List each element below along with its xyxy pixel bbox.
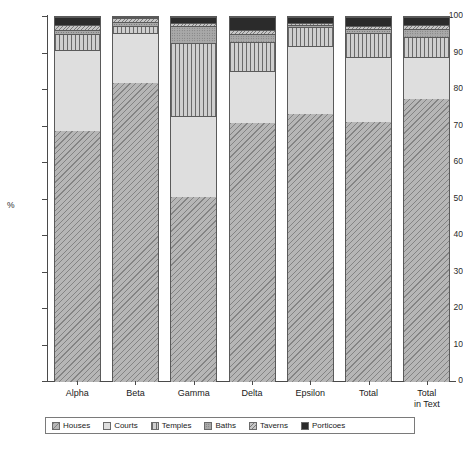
segment-porticoes[interactable] bbox=[230, 17, 275, 30]
bar-delta[interactable] bbox=[229, 16, 276, 381]
legend-swatch-baths-icon bbox=[204, 422, 212, 430]
segment-temples[interactable] bbox=[230, 42, 275, 71]
segment-baths[interactable] bbox=[55, 30, 100, 34]
segment-houses[interactable] bbox=[230, 123, 275, 382]
chart-legend: HousesCourtsTemplesBathsTavernsPorticoes bbox=[45, 417, 415, 434]
y-tick-mark bbox=[42, 381, 47, 382]
y-tick-mark bbox=[42, 345, 47, 346]
y-tick-mark bbox=[42, 16, 47, 17]
bar-total[interactable] bbox=[345, 16, 392, 381]
legend-label: Porticoes bbox=[312, 422, 345, 430]
segment-temples[interactable] bbox=[404, 37, 449, 57]
legend-label: Houses bbox=[63, 422, 90, 430]
segment-baths[interactable] bbox=[404, 29, 449, 37]
segment-taverns[interactable] bbox=[113, 18, 158, 21]
x-tick-label: Epsilon bbox=[281, 388, 339, 399]
segment-baths[interactable] bbox=[346, 29, 391, 34]
segment-houses[interactable] bbox=[288, 114, 333, 382]
segment-courts[interactable] bbox=[288, 46, 333, 114]
segment-porticoes[interactable] bbox=[288, 17, 333, 23]
segment-courts[interactable] bbox=[404, 57, 449, 99]
x-tick-mark bbox=[77, 381, 78, 385]
x-tick-label: Total in Text bbox=[398, 388, 456, 410]
segment-houses[interactable] bbox=[346, 122, 391, 382]
bar-alpha[interactable] bbox=[54, 16, 101, 381]
segment-temples[interactable] bbox=[113, 26, 158, 33]
legend-item-porticoes[interactable]: Porticoes bbox=[301, 422, 345, 430]
segment-taverns[interactable] bbox=[55, 25, 100, 30]
y-tick-mark bbox=[42, 308, 47, 309]
legend-swatch-porticoes-icon bbox=[301, 422, 309, 430]
legend-item-temples[interactable]: Temples bbox=[151, 422, 192, 430]
segment-temples[interactable] bbox=[346, 33, 391, 56]
y-tick-mark bbox=[42, 89, 47, 90]
legend-item-baths[interactable]: Baths bbox=[204, 422, 235, 430]
legend-swatch-houses-icon bbox=[52, 422, 60, 430]
segment-courts[interactable] bbox=[346, 57, 391, 123]
x-tick-label: Delta bbox=[223, 388, 281, 399]
segment-taverns[interactable] bbox=[346, 26, 391, 29]
y-tick-mark bbox=[42, 162, 47, 163]
y-tick-mark bbox=[42, 126, 47, 127]
segment-taverns[interactable] bbox=[404, 25, 449, 29]
segment-baths[interactable] bbox=[113, 22, 158, 26]
segment-temples[interactable] bbox=[55, 34, 100, 50]
y-tick-mark bbox=[42, 235, 47, 236]
stacked-bar-chart: % 0102030405060708090100 AlphaBetaGammaD… bbox=[0, 0, 463, 450]
segment-baths[interactable] bbox=[288, 25, 333, 27]
segment-taverns[interactable] bbox=[171, 23, 216, 26]
segment-courts[interactable] bbox=[55, 50, 100, 131]
segment-baths[interactable] bbox=[171, 26, 216, 43]
legend-item-courts[interactable]: Courts bbox=[103, 422, 138, 430]
plot-area bbox=[48, 16, 456, 381]
segment-baths[interactable] bbox=[230, 34, 275, 42]
legend-label: Temples bbox=[162, 422, 192, 430]
segment-courts[interactable] bbox=[230, 71, 275, 122]
y-tick-mark bbox=[42, 272, 47, 273]
bar-total-in-text[interactable] bbox=[403, 16, 450, 381]
segment-porticoes[interactable] bbox=[171, 17, 216, 23]
segment-houses[interactable] bbox=[171, 197, 216, 382]
segment-courts[interactable] bbox=[113, 33, 158, 83]
segment-porticoes[interactable] bbox=[346, 17, 391, 26]
legend-item-taverns[interactable]: Taverns bbox=[249, 422, 288, 430]
x-tick-mark bbox=[135, 381, 136, 385]
legend-swatch-temples-icon bbox=[151, 422, 159, 430]
y-tick-mark bbox=[42, 53, 47, 54]
segment-porticoes[interactable] bbox=[55, 17, 100, 25]
y-axis-unit-label: % bbox=[7, 200, 15, 210]
legend-label: Courts bbox=[114, 422, 138, 430]
x-tick-label: Total bbox=[339, 388, 397, 399]
x-tick-mark bbox=[252, 381, 253, 385]
x-tick-mark bbox=[194, 381, 195, 385]
segment-courts[interactable] bbox=[171, 116, 216, 198]
bar-gamma[interactable] bbox=[170, 16, 217, 381]
segment-porticoes[interactable] bbox=[113, 17, 158, 18]
segment-temples[interactable] bbox=[288, 27, 333, 46]
x-tick-label: Beta bbox=[106, 388, 164, 399]
legend-swatch-courts-icon bbox=[103, 422, 111, 430]
segment-taverns[interactable] bbox=[230, 30, 275, 34]
y-tick-mark bbox=[42, 199, 47, 200]
legend-swatch-taverns-icon bbox=[249, 422, 257, 430]
bar-epsilon[interactable] bbox=[287, 16, 334, 381]
segment-temples[interactable] bbox=[171, 43, 216, 116]
x-tick-mark bbox=[310, 381, 311, 385]
legend-label: Baths bbox=[215, 422, 235, 430]
x-tick-label: Gamma bbox=[165, 388, 223, 399]
x-tick-mark bbox=[369, 381, 370, 385]
x-tick-label: Alpha bbox=[48, 388, 106, 399]
segment-houses[interactable] bbox=[55, 131, 100, 382]
segment-houses[interactable] bbox=[404, 99, 449, 382]
segment-houses[interactable] bbox=[113, 83, 158, 382]
segment-taverns[interactable] bbox=[288, 23, 333, 24]
segment-porticoes[interactable] bbox=[404, 17, 449, 25]
x-tick-mark bbox=[427, 381, 428, 385]
bar-beta[interactable] bbox=[112, 16, 159, 381]
legend-item-houses[interactable]: Houses bbox=[52, 422, 90, 430]
legend-label: Taverns bbox=[260, 422, 288, 430]
